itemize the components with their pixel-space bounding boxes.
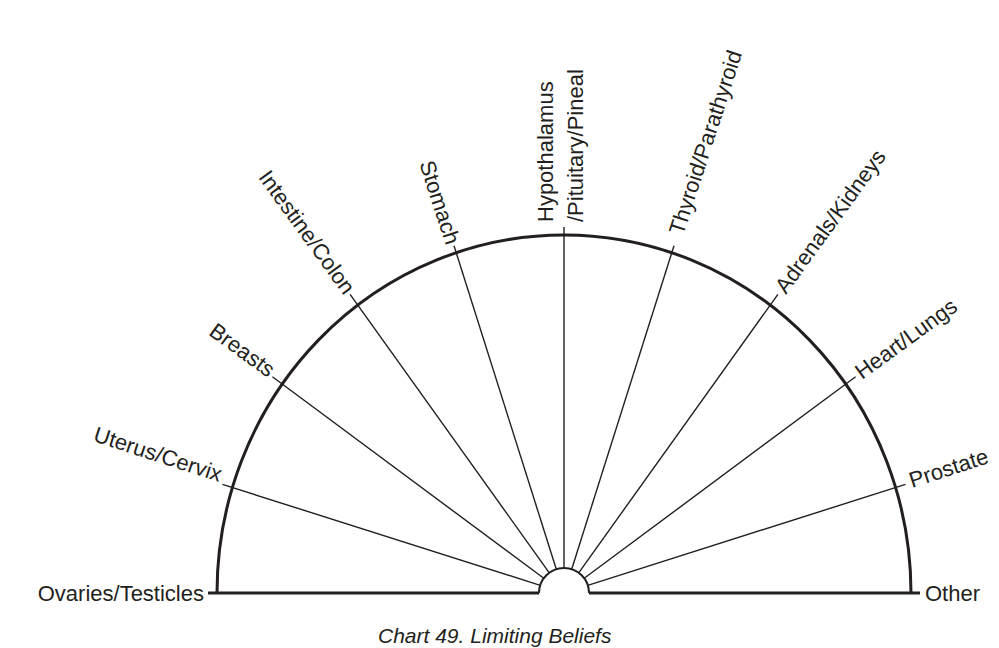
label-ovaries-testicles: Ovaries/Testicles: [38, 581, 204, 606]
label-hypothalamus: Hypothalamus: [533, 81, 558, 222]
label-uterus-cervix: Uterus/Cervix: [91, 422, 225, 487]
label-stomach: Stomach: [414, 157, 465, 247]
spoke-breasts: [272, 377, 543, 579]
spoke-uterus: [223, 484, 541, 585]
label-breasts: Breasts: [205, 318, 280, 382]
label-adrenals-kidneys: Adrenals/Kidneys: [770, 145, 891, 298]
label-other: Other: [925, 581, 980, 606]
spoke-intestine: [350, 294, 549, 572]
label-intestine-colon: Intestine/Colon: [254, 166, 360, 299]
label-thyroid-parathyroid: Thyroid/Parathyroid: [664, 47, 747, 237]
spoke-thyroid: [572, 246, 674, 570]
pendulum-chart: Ovaries/Testicles Other Uterus/Cervix Br…: [0, 0, 999, 648]
center-hub: [539, 568, 589, 593]
label-prostate: Prostate: [906, 444, 992, 493]
chart-caption: Chart 49. Limiting Beliefs: [378, 624, 612, 647]
spoke-prostate: [588, 484, 906, 585]
spoke-heart: [584, 377, 855, 579]
label-heart-lungs: Heart/Lungs: [850, 293, 962, 384]
spoke-adrenals: [579, 294, 778, 572]
spoke-stomach: [454, 246, 556, 570]
label-pituitary-pineal: /Pituitary/Pineal: [563, 69, 588, 222]
spokes: [223, 227, 906, 585]
